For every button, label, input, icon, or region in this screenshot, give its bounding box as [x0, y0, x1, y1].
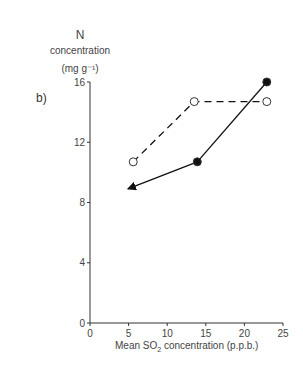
x-tick-label: 15	[200, 328, 212, 339]
x-tick-label: 25	[277, 328, 289, 339]
x-axis-label: Mean SO2 concentration (p.p.b.)	[115, 340, 258, 353]
y-tick-label: 12	[74, 137, 86, 148]
y-tick-label: 8	[79, 197, 85, 208]
x-axis-label-post: concentration (p.p.b.)	[161, 340, 258, 351]
filled-circle-marker	[263, 78, 271, 86]
y-tick-label: 4	[79, 257, 85, 268]
y-tick-label: 16	[74, 77, 86, 88]
x-tick-label: 10	[162, 328, 174, 339]
filled-circle-marker	[193, 158, 201, 166]
chart-area: 04812160510152025	[0, 0, 303, 366]
x-axis-label-pre: Mean SO	[115, 340, 157, 351]
open-circle-marker	[129, 158, 137, 166]
arrow-line	[128, 162, 197, 189]
y-tick-label: 0	[79, 318, 85, 329]
x-tick-label: 20	[239, 328, 251, 339]
x-tick-label: 0	[87, 328, 93, 339]
series-line-1	[197, 82, 266, 162]
open-circle-marker	[190, 98, 198, 106]
x-tick-label: 5	[126, 328, 132, 339]
series-line-0	[133, 102, 267, 162]
open-circle-marker	[263, 98, 271, 106]
